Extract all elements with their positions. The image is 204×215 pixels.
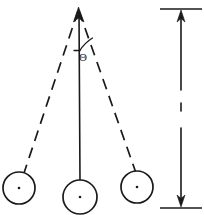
pendulum-diagram: Θ (0, 0, 204, 215)
angle-arc (80, 38, 93, 51)
string-center-rest (79, 11, 80, 182)
bob-right-center-dot (136, 186, 139, 189)
bob-center-center-dot (79, 196, 82, 199)
string-right-displaced (79, 11, 136, 173)
angle-label-theta: Θ (79, 51, 87, 63)
pendulum-canvas: Θ (0, 0, 204, 215)
string-left-displaced (24, 11, 78, 173)
bob-left-center-dot (18, 187, 21, 190)
